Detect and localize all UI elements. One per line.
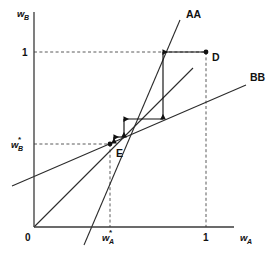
point-label-E: E — [116, 147, 123, 159]
y-tick-label-one: 1 — [22, 47, 28, 58]
x-tick-label-one: 1 — [203, 232, 209, 243]
curves-group — [12, 20, 246, 245]
x-tick-label-wa-star: w * A — [102, 228, 114, 245]
y-axis-label-subscript: B — [24, 14, 29, 21]
x-axis-label: w A — [240, 232, 252, 245]
y-tick-wb-subscript: B — [18, 145, 23, 152]
x-axis-label-subscript: A — [246, 238, 252, 245]
curve-BB — [12, 85, 246, 186]
curve-label-AA: AA — [186, 8, 202, 20]
origin-label-zero: 0 — [25, 232, 31, 243]
point-label-D: D — [212, 51, 220, 63]
x-tick-wa-star: * — [109, 228, 113, 237]
x-tick-wa-subscript: A — [108, 238, 114, 245]
curve-label-BB: BB — [250, 71, 266, 83]
points-group — [108, 50, 209, 147]
phase-diagram-svg: AA BB D E w B 1 w * B 0 w * A 1 w — [0, 0, 276, 258]
y-tick-label-wb-star: w * B — [11, 135, 23, 152]
diagonal-45-line — [34, 68, 193, 227]
y-tick-wb-star: * — [18, 135, 22, 144]
point-D-marker — [204, 50, 209, 55]
y-axis-label: w B — [17, 8, 29, 21]
diagram-canvas: AA BB D E w B 1 w * B 0 w * A 1 w — [0, 0, 276, 258]
curve-AA — [84, 20, 180, 245]
point-E-marker — [108, 142, 113, 147]
